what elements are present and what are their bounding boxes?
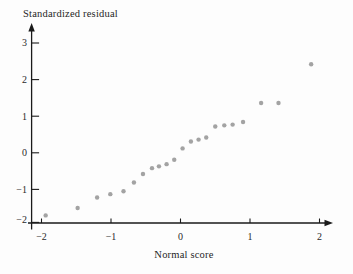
- y-tick-label: 3: [22, 37, 27, 48]
- data-point: [276, 101, 280, 105]
- data-point: [309, 62, 313, 66]
- data-point: [259, 101, 263, 105]
- data-point: [121, 189, 125, 193]
- y-axis-arrow-icon: [28, 23, 34, 32]
- x-tick-label: 2: [317, 231, 322, 242]
- data-point: [141, 172, 145, 176]
- data-point: [157, 164, 161, 168]
- y-tick-label: 0: [22, 147, 27, 158]
- x-tick-label: −1: [106, 231, 117, 242]
- data-point: [132, 180, 136, 184]
- data-point: [222, 123, 226, 127]
- data-point: [189, 139, 193, 143]
- data-point: [213, 124, 217, 128]
- data-point: [172, 158, 176, 162]
- y-tick-label: −1: [16, 184, 27, 195]
- y-tick-label: 2: [22, 74, 27, 85]
- x-axis-arrow-icon: [325, 220, 334, 226]
- data-point: [108, 192, 112, 196]
- y-tick-label: 1: [22, 111, 27, 122]
- data-point: [204, 135, 208, 139]
- data-point: [230, 122, 234, 126]
- normal-probability-plot-figure: −2−10123210−1−2 Standardized residual No…: [0, 0, 353, 274]
- x-axis-label: Normal score: [154, 249, 213, 260]
- x-tick-label: −2: [36, 231, 47, 242]
- data-point: [43, 213, 47, 217]
- data-point: [150, 166, 154, 170]
- x-tick-label: 0: [178, 231, 183, 242]
- y-tick-label: −2: [16, 214, 27, 225]
- data-point: [75, 206, 79, 210]
- x-tick-label: 1: [248, 231, 253, 242]
- data-point: [95, 195, 99, 199]
- data-point: [180, 146, 184, 150]
- data-point: [196, 137, 200, 141]
- plot-svg: −2−10123210−1−2: [0, 0, 353, 274]
- data-point: [164, 162, 168, 166]
- y-axis-title: Standardized residual: [23, 8, 118, 19]
- data-point: [241, 120, 245, 124]
